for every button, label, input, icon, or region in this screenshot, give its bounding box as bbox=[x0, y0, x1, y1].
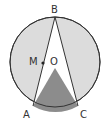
label-m: M bbox=[29, 56, 38, 67]
label-b: B bbox=[51, 4, 58, 15]
point-m bbox=[41, 61, 44, 64]
circle-diagram: B O M A C bbox=[0, 0, 108, 120]
label-o: O bbox=[50, 56, 58, 67]
label-a: A bbox=[23, 109, 30, 120]
label-c: C bbox=[80, 109, 87, 120]
